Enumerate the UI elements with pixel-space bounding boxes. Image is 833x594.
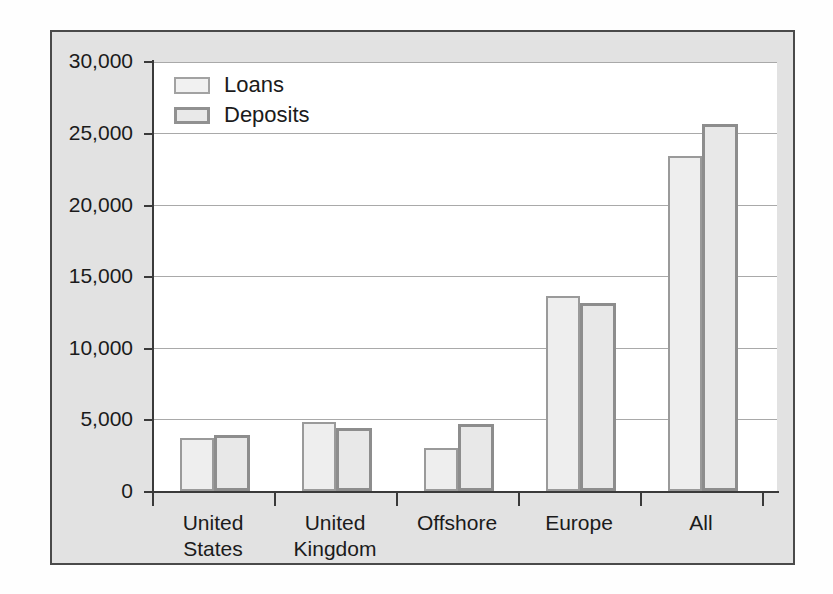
bar-united-kingdom-loans [302, 422, 336, 491]
gridline-30000 [154, 62, 777, 63]
y-tick-label-20000: 20,000 [69, 193, 133, 217]
chart-figure-frame: 30,000 25,000 20,000 15,000 10,000 5,000… [50, 30, 795, 565]
y-tick-mark-30000 [144, 61, 154, 63]
y-tick-mark-10000 [144, 348, 154, 350]
chart-legend: Loans Deposits [174, 70, 310, 130]
bar-united-kingdom-deposits [336, 428, 372, 491]
y-tick-mark-5000 [144, 419, 154, 421]
category-label-united-states: United States [152, 510, 274, 563]
category-tick-2 [396, 493, 398, 506]
bar-offshore-loans [424, 448, 458, 491]
y-tick-label-10000: 10,000 [69, 336, 133, 360]
category-tick-0 [152, 493, 154, 506]
y-tick-label-5000: 5,000 [80, 407, 133, 431]
legend-label-loans: Loans [224, 72, 284, 98]
y-tick-label-30000: 30,000 [69, 49, 133, 73]
category-tick-5 [762, 493, 764, 506]
gridline-25000 [154, 133, 777, 134]
category-tick-3 [518, 493, 520, 506]
legend-swatch-loans-icon [174, 77, 210, 94]
category-tick-1 [274, 493, 276, 506]
bar-united-states-loans [180, 438, 214, 491]
category-label-europe: Europe [518, 510, 640, 536]
legend-label-deposits: Deposits [224, 102, 310, 128]
page-background: 30,000 25,000 20,000 15,000 10,000 5,000… [0, 0, 833, 594]
legend-item-deposits: Deposits [174, 100, 310, 130]
y-tick-label-0: 0 [121, 479, 133, 503]
y-tick-label-15000: 15,000 [69, 264, 133, 288]
category-label-offshore: Offshore [396, 510, 518, 536]
y-tick-label-25000: 25,000 [69, 121, 133, 145]
bar-offshore-deposits [458, 424, 494, 491]
category-label-united-kingdom: United Kingdom [274, 510, 396, 563]
y-tick-mark-20000 [144, 205, 154, 207]
bar-europe-loans [546, 296, 580, 491]
y-tick-mark-15000 [144, 276, 154, 278]
y-tick-mark-25000 [144, 133, 154, 135]
x-axis-line [152, 491, 779, 493]
bar-united-states-deposits [214, 435, 250, 491]
bar-all-loans [668, 156, 702, 491]
category-label-all: All [640, 510, 762, 536]
bar-europe-deposits [580, 303, 616, 491]
legend-item-loans: Loans [174, 70, 310, 100]
category-tick-4 [640, 493, 642, 506]
legend-swatch-deposits-icon [174, 107, 210, 124]
bar-all-deposits [702, 124, 738, 491]
